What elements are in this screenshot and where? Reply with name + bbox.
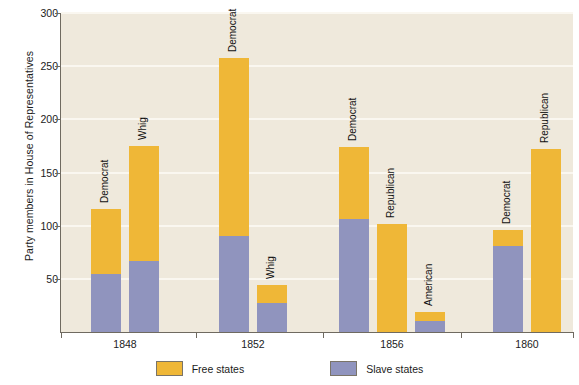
bar[interactable]: Democrat: [493, 230, 523, 332]
bar-party-label: Democrat: [227, 8, 238, 51]
bar-segment-free-states: [531, 149, 561, 332]
bar-party-label: Whig: [265, 256, 276, 279]
bar-party-label: Whig: [137, 117, 148, 140]
y-axis-tick-label: 100: [18, 220, 58, 232]
x-axis-tick-label: 1860: [487, 338, 567, 350]
y-axis-tick-mark: [55, 173, 60, 174]
plot-area: DemocratWhigDemocratWhigDemocratRepublic…: [61, 13, 573, 332]
bar[interactable]: Democrat: [219, 58, 249, 332]
y-axis-line: [60, 13, 61, 333]
bar-segment-slave-states: [415, 321, 445, 332]
x-axis-tick-mark: [323, 332, 324, 338]
legend-label: Slave states: [366, 363, 423, 375]
legend: Free statesSlave states: [0, 361, 579, 376]
y-axis-tick-label: 250: [18, 60, 58, 72]
x-axis-tick-label: 1848: [85, 338, 165, 350]
bar-segment-free-states: [377, 224, 407, 332]
x-axis-tick-mark: [196, 332, 197, 338]
bar-party-label: Democrat: [501, 181, 512, 224]
y-axis-tick-mark: [55, 13, 60, 14]
gridline: [61, 65, 573, 67]
y-axis-tick-mark: [55, 279, 60, 280]
x-axis-tick-mark: [573, 332, 574, 338]
bar-segment-free-states: [493, 230, 523, 246]
bar-party-label: American: [423, 264, 434, 306]
bar-segment-slave-states: [219, 236, 249, 332]
gridline: [61, 12, 573, 14]
x-axis-tick-mark: [61, 332, 62, 338]
bar-party-label: Republican: [539, 93, 550, 143]
legend-item: Free states: [156, 361, 245, 376]
bar-segment-slave-states: [257, 303, 287, 332]
bar-segment-free-states: [415, 312, 445, 322]
bar-segment-slave-states: [129, 261, 159, 332]
bar-segment-free-states: [257, 285, 287, 303]
y-axis-tick-mark: [55, 119, 60, 120]
legend-swatch: [156, 361, 183, 376]
y-axis-tick-mark: [55, 66, 60, 67]
bar[interactable]: Whig: [257, 285, 287, 332]
y-axis-tick-label: 200: [18, 113, 58, 125]
bar-party-label: Democrat: [99, 159, 110, 202]
bar-segment-slave-states: [91, 274, 121, 332]
bar-segment-slave-states: [339, 219, 369, 332]
bar-segment-slave-states: [493, 246, 523, 332]
bar[interactable]: Whig: [129, 146, 159, 332]
y-axis-tick-label: 150: [18, 167, 58, 179]
bar-segment-free-states: [339, 147, 369, 219]
bar[interactable]: American: [415, 312, 445, 332]
x-axis-tick-label: 1856: [352, 338, 432, 350]
y-axis-tick-label: 300: [18, 7, 58, 19]
bar[interactable]: Democrat: [339, 147, 369, 332]
bar-chart: Party members in House of Representative…: [0, 0, 579, 385]
bar-segment-free-states: [129, 146, 159, 261]
legend-label: Free states: [192, 363, 245, 375]
y-axis-tick-label: 50: [18, 273, 58, 285]
y-axis-tick-mark: [55, 226, 60, 227]
bar-segment-free-states: [219, 58, 249, 237]
bar-party-label: Republican: [385, 168, 396, 218]
x-axis-tick-mark: [461, 332, 462, 338]
bar[interactable]: Republican: [377, 224, 407, 332]
bar[interactable]: Democrat: [91, 209, 121, 332]
legend-swatch: [330, 361, 357, 376]
bar-party-label: Democrat: [347, 98, 358, 141]
bar[interactable]: Republican: [531, 149, 561, 332]
legend-item: Slave states: [330, 361, 423, 376]
x-axis-tick-label: 1852: [213, 338, 293, 350]
x-axis-line: [60, 332, 573, 333]
bar-segment-free-states: [91, 209, 121, 274]
